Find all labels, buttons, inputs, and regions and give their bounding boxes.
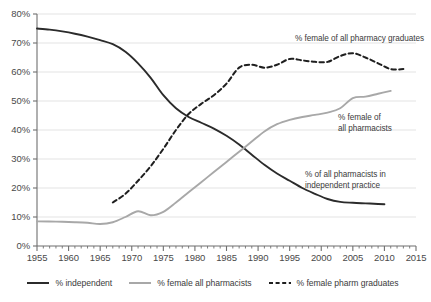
- x-axis-label-1990: 1990: [241, 252, 275, 263]
- x-axis-label-1965: 1965: [83, 252, 117, 263]
- y-axis-label-30: 30%: [0, 153, 30, 164]
- y-axis-ticks: [33, 14, 37, 246]
- annotation-independent-practice: % of all pharmacists in independent prac…: [305, 170, 425, 191]
- annotation-female-pharmacists-line2: all pharmacists: [338, 124, 392, 133]
- chart-legend: % independent% female all pharmacists% f…: [0, 278, 425, 288]
- legend-item-0[interactable]: % independent: [26, 278, 112, 288]
- y-axis-label-60: 60%: [0, 66, 30, 77]
- legend-item-1[interactable]: % female all pharmacists: [128, 278, 251, 288]
- legend-label-0: % independent: [55, 278, 112, 288]
- legend-swatch-solid-icon: [128, 279, 152, 287]
- annotation-female-graduates: % female of all pharmacy graduates: [234, 34, 424, 45]
- y-axis-label-70: 70%: [0, 37, 30, 48]
- y-axis-label-10: 10%: [0, 211, 30, 222]
- x-axis-label-1955: 1955: [20, 252, 54, 263]
- x-axis-label-1985: 1985: [210, 252, 244, 263]
- x-axis-label-1980: 1980: [178, 252, 212, 263]
- x-axis-label-1975: 1975: [146, 252, 180, 263]
- x-axis-label-2005: 2005: [336, 252, 370, 263]
- legend-item-2[interactable]: % female pharm graduates: [268, 278, 399, 288]
- x-axis-label-2015: 2015: [399, 252, 431, 263]
- y-axis-label-80: 80%: [0, 8, 30, 19]
- legend-label-2: % female pharm graduates: [297, 278, 399, 288]
- x-axis-label-1995: 1995: [273, 252, 307, 263]
- series-line-1: [37, 91, 391, 224]
- legend-swatch-dashed-icon: [268, 279, 292, 287]
- y-axis-label-0: 0%: [0, 240, 30, 251]
- y-axis-label-20: 20%: [0, 182, 30, 193]
- legend-label-1: % female all pharmacists: [157, 278, 251, 288]
- annotation-independent-line2: independent practice: [305, 181, 380, 190]
- x-axis-label-1970: 1970: [115, 252, 149, 263]
- y-axis-label-40: 40%: [0, 124, 30, 135]
- x-axis-label-1960: 1960: [52, 252, 86, 263]
- legend-swatch-solid-icon: [26, 279, 50, 287]
- x-axis-label-2010: 2010: [367, 252, 401, 263]
- annotation-independent-line1: % of all pharmacists in: [305, 170, 386, 179]
- x-axis-ticks: [37, 246, 416, 251]
- y-axis-label-50: 50%: [0, 95, 30, 106]
- annotation-female-pharmacists-line1: % female of: [338, 113, 381, 122]
- annotation-female-pharmacists: % female of all pharmacists: [338, 113, 422, 134]
- x-axis-label-2000: 2000: [304, 252, 338, 263]
